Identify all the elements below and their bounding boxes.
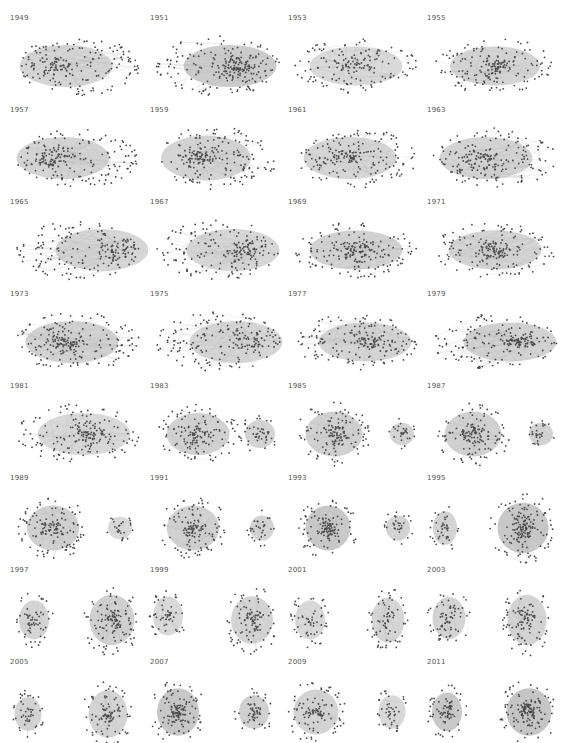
network-graph — [425, 382, 565, 474]
year-label: 1963 — [427, 106, 446, 114]
network-panel-1989: 1989 — [8, 474, 148, 566]
year-label: 1997 — [10, 566, 29, 574]
network-panel-1973: 1973 — [8, 290, 148, 382]
edges — [305, 501, 411, 552]
network-panel-1985: 1985 — [286, 382, 426, 474]
year-label: 1973 — [10, 290, 29, 298]
network-graph — [148, 658, 288, 743]
network-panel-1977: 1977 — [286, 290, 426, 382]
cluster-density-shading — [187, 229, 280, 271]
network-panel-2009: 2009 — [286, 658, 426, 743]
network-panel-2007: 2007 — [148, 658, 288, 743]
network-graph — [148, 290, 288, 382]
network-panel-1991: 1991 — [148, 474, 288, 566]
network-panel-1981: 1981 — [8, 382, 148, 474]
network-graph — [286, 566, 426, 658]
network-panel-1987: 1987 — [425, 382, 565, 474]
network-panel-1965: 1965 — [8, 198, 148, 290]
edges — [300, 403, 414, 466]
cluster-density-shading — [19, 600, 49, 639]
network-panel-2001: 2001 — [286, 566, 426, 658]
year-label: 1987 — [427, 382, 446, 390]
year-label: 2001 — [288, 566, 307, 574]
year-label: 2003 — [427, 566, 446, 574]
network-graph — [286, 106, 426, 198]
network-panel-1999: 1999 — [148, 566, 288, 658]
edges — [436, 316, 557, 368]
network-panel-1967: 1967 — [148, 198, 288, 290]
year-label: 2009 — [288, 658, 307, 666]
network-graph — [148, 14, 288, 106]
network-graph — [286, 198, 426, 290]
network-graph — [286, 290, 426, 382]
network-graph — [286, 382, 426, 474]
year-label: 1991 — [150, 474, 169, 482]
network-graph — [425, 658, 565, 743]
edges — [18, 314, 139, 365]
network-panel-1983: 1983 — [148, 382, 288, 474]
cluster-density-shading — [306, 506, 351, 551]
network-panel-1975: 1975 — [148, 290, 288, 382]
year-label: 1967 — [150, 198, 169, 206]
year-label: 1985 — [288, 382, 307, 390]
year-label: 1953 — [288, 14, 307, 22]
cluster-density-shading — [432, 692, 462, 731]
network-panel-1995: 1995 — [425, 474, 565, 566]
network-panel-1949: 1949 — [8, 14, 148, 106]
network-panel-1955: 1955 — [425, 14, 565, 106]
network-panel-1951: 1951 — [148, 14, 288, 106]
cluster-density-shading — [306, 412, 363, 457]
cluster-density-shading — [245, 420, 275, 448]
year-label: 1959 — [150, 106, 169, 114]
network-graph — [8, 658, 148, 743]
cluster-density-shading — [108, 517, 132, 539]
network-panel-1961: 1961 — [286, 106, 426, 198]
network-panel-1993: 1993 — [286, 474, 426, 566]
edges — [17, 131, 137, 185]
network-panel-2011: 2011 — [425, 658, 565, 743]
network-graph — [286, 658, 426, 743]
network-graph — [8, 290, 148, 382]
year-label: 1995 — [427, 474, 446, 482]
year-label: 2007 — [150, 658, 169, 666]
year-label: 1989 — [10, 474, 29, 482]
network-graph — [286, 14, 426, 106]
network-graph — [8, 198, 148, 290]
year-label: 1951 — [150, 14, 169, 22]
network-graph — [425, 106, 565, 198]
year-label: 1955 — [427, 14, 446, 22]
network-panel-1971: 1971 — [425, 198, 565, 290]
year-label: 2005 — [10, 658, 29, 666]
network-graph — [8, 566, 148, 658]
network-graph — [425, 566, 565, 658]
network-graph — [148, 106, 288, 198]
network-panel-2003: 2003 — [425, 566, 565, 658]
edges — [301, 133, 412, 185]
year-label: 2011 — [427, 658, 446, 666]
year-label: 1975 — [150, 290, 169, 298]
network-graph — [425, 14, 565, 106]
network-graph — [148, 474, 288, 566]
cluster-density-shading — [310, 46, 403, 85]
network-graph — [425, 198, 565, 290]
network-graph — [8, 14, 148, 106]
network-panel-1953: 1953 — [286, 14, 426, 106]
edges — [295, 39, 416, 92]
network-panel-1979: 1979 — [425, 290, 565, 382]
edges — [428, 682, 553, 741]
network-panel-1997: 1997 — [8, 566, 148, 658]
network-graph — [8, 106, 148, 198]
year-label: 1969 — [288, 198, 307, 206]
network-graph — [425, 290, 565, 382]
year-label: 1971 — [427, 198, 446, 206]
network-panel-2005: 2005 — [8, 658, 148, 743]
year-label: 1957 — [10, 106, 29, 114]
edges — [164, 500, 274, 557]
year-label: 1983 — [150, 382, 169, 390]
network-panel-1957: 1957 — [8, 106, 148, 198]
year-label: 1979 — [427, 290, 446, 298]
network-panel-1959: 1959 — [148, 106, 288, 198]
nodes — [429, 493, 553, 563]
year-label: 1961 — [288, 106, 307, 114]
network-graph — [148, 382, 288, 474]
